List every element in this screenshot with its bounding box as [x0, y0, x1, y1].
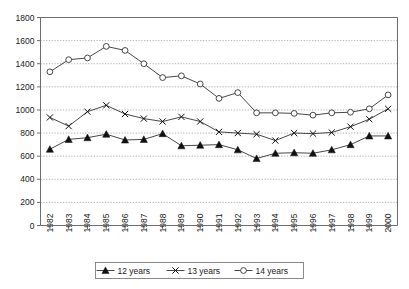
data-point: [310, 112, 316, 118]
data-point: [254, 110, 260, 116]
chart-legend: 12 years13 years14 years: [96, 263, 304, 279]
axes: [41, 18, 398, 226]
x-tick-label: 1984: [82, 213, 92, 232]
series-14-years: [47, 43, 391, 118]
x-tick-label: 1996: [308, 213, 318, 232]
data-point: [66, 57, 72, 63]
x-tick-label: 1989: [176, 213, 186, 232]
series-13-years: [47, 102, 391, 143]
line-chart: 020040060080010001200140016001800 198219…: [0, 0, 409, 289]
data-point: [329, 110, 335, 116]
data-point: [291, 111, 297, 117]
y-axis-ticks: 020040060080010001200140016001800: [16, 13, 41, 231]
series-path: [50, 46, 388, 115]
data-point: [103, 131, 110, 138]
data-point: [160, 75, 166, 81]
data-point: [366, 106, 372, 112]
series-12-years: [46, 130, 391, 162]
y-tick-label: 1000: [16, 105, 35, 115]
x-tick-label: 1982: [45, 213, 55, 232]
x-tick-label: 1988: [158, 213, 168, 232]
chart-canvas: 020040060080010001200140016001800 198219…: [0, 0, 409, 289]
data-point: [348, 109, 354, 115]
y-tick-label: 600: [20, 151, 34, 161]
data-point: [272, 110, 278, 116]
legend-item-label: 12 years: [118, 266, 151, 276]
x-tick-label: 2000: [383, 213, 393, 232]
data-point: [385, 92, 391, 98]
x-tick-label: 1993: [252, 213, 262, 232]
y-tick-label: 1400: [16, 59, 35, 69]
x-tick-label: 1987: [139, 213, 149, 232]
data-point: [85, 55, 91, 61]
y-tick-label: 200: [20, 197, 34, 207]
data-point: [46, 146, 53, 153]
gridlines: [41, 18, 398, 203]
data-point: [122, 48, 128, 54]
x-tick-label: 1992: [233, 213, 243, 232]
x-tick-label: 1990: [195, 213, 205, 232]
x-tick-label: 1995: [289, 213, 299, 232]
y-tick-label: 1600: [16, 36, 35, 46]
data-point: [216, 95, 222, 101]
x-tick-label: 1999: [364, 213, 374, 232]
data-point: [347, 141, 354, 148]
x-tick-label: 1986: [120, 213, 130, 232]
data-point: [159, 130, 166, 137]
legend-item-label: 13 years: [188, 266, 221, 276]
x-tick-label: 1991: [214, 213, 224, 232]
data-point: [197, 81, 203, 87]
x-tick-label: 1994: [270, 213, 280, 232]
y-tick-label: 1800: [16, 13, 35, 23]
y-tick-label: 400: [20, 174, 34, 184]
data-point: [47, 69, 53, 75]
x-tick-label: 1985: [101, 213, 111, 232]
data-series-layer: [46, 43, 391, 161]
data-point: [235, 90, 241, 96]
x-tick-label: 1983: [64, 213, 74, 232]
x-tick-label: 1998: [346, 213, 356, 232]
x-tick-label: 1997: [327, 213, 337, 232]
y-tick-label: 800: [20, 128, 34, 138]
data-point: [103, 43, 109, 49]
y-tick-label: 1200: [16, 82, 35, 92]
data-point: [179, 73, 185, 79]
y-tick-label: 0: [30, 221, 35, 231]
legend-marker-icon: [241, 268, 247, 274]
legend-item-label: 14 years: [256, 266, 289, 276]
x-axis-ticks: 1982198319841985198619871988198919901991…: [45, 213, 393, 232]
data-point: [141, 61, 147, 67]
